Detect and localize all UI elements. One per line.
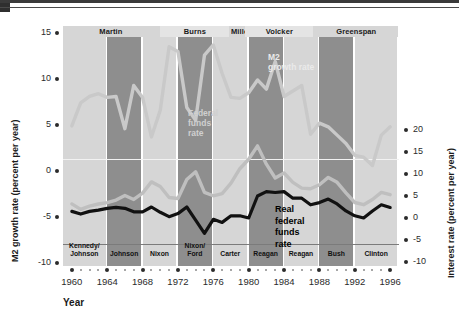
top-rule-thick bbox=[0, 0, 459, 3]
right-tick-label: -5 bbox=[413, 234, 433, 244]
x-tick-dot-minor bbox=[159, 269, 161, 271]
right-tick-dot bbox=[404, 238, 408, 242]
fed-chair-label: Miller bbox=[231, 27, 244, 36]
series-line bbox=[72, 45, 390, 166]
right-tick-label: 5 bbox=[413, 190, 433, 200]
president-label: Reagan bbox=[249, 250, 283, 258]
president-label: Reagan bbox=[284, 250, 318, 258]
left-tick-dot bbox=[55, 31, 59, 35]
x-tick-dot-minor bbox=[345, 269, 347, 271]
x-tick-dot-major bbox=[141, 268, 145, 272]
x-tick-dot-major bbox=[211, 268, 215, 272]
left-tick-label: 15 bbox=[24, 27, 51, 37]
x-tick-dot-minor bbox=[186, 269, 188, 271]
left-tick-dot bbox=[55, 215, 59, 219]
series-line bbox=[72, 146, 390, 210]
x-tick-dot-minor bbox=[380, 269, 382, 271]
x-tick-label: 1972 bbox=[158, 276, 198, 287]
fed-chair-label: Greenspan bbox=[315, 27, 398, 36]
x-tick-dot-major bbox=[70, 268, 74, 272]
right-tick-dot bbox=[404, 150, 408, 154]
left-tick-label: 10 bbox=[24, 73, 51, 83]
x-tick-dot-minor bbox=[301, 269, 303, 271]
president-label: Johnson bbox=[107, 250, 141, 258]
x-tick-dot-minor bbox=[89, 269, 91, 271]
x-tick-dot-minor bbox=[203, 269, 205, 271]
top-rule-thin bbox=[0, 7, 459, 8]
x-tick-dot-minor bbox=[97, 269, 99, 271]
right-tick-label: 10 bbox=[413, 168, 433, 178]
fed-chair-label: Martin bbox=[63, 27, 159, 36]
x-tick-dot-minor bbox=[230, 269, 232, 271]
x-tick-label: 1976 bbox=[193, 276, 233, 287]
left-tick-label: -10 bbox=[24, 257, 51, 267]
x-tick-label: 1988 bbox=[299, 276, 339, 287]
left-tick-dot bbox=[55, 169, 59, 173]
left-tick-dot bbox=[55, 123, 59, 127]
left-tick-label: -5 bbox=[24, 211, 51, 221]
right-tick-label: 20 bbox=[413, 124, 433, 134]
x-tick-dot-major bbox=[282, 268, 286, 272]
president-label: Clinton bbox=[355, 250, 398, 258]
series-annotation: Federal funds rate bbox=[188, 108, 218, 138]
right-tick-label: -10 bbox=[413, 256, 433, 266]
left-tick-label: 0 bbox=[24, 165, 51, 175]
x-tick-dot-minor bbox=[371, 269, 373, 271]
x-tick-label: 1984 bbox=[264, 276, 304, 287]
x-tick-dot-minor bbox=[274, 269, 276, 271]
x-tick-dot-minor bbox=[292, 269, 294, 271]
plot-area: MartinBurnsMillerVolckerGreenspan Kenned… bbox=[63, 26, 399, 266]
x-tick-label: 1964 bbox=[87, 276, 127, 287]
x-tick-dot-minor bbox=[327, 269, 329, 271]
x-tick-dot-minor bbox=[168, 269, 170, 271]
president-label: Nixon/ Ford bbox=[178, 242, 212, 257]
x-tick-dot-minor bbox=[195, 269, 197, 271]
x-tick-dot-minor bbox=[239, 269, 241, 271]
right-tick-dot bbox=[404, 194, 408, 198]
series-annotation: Real federal funds rate bbox=[275, 204, 305, 250]
left-tick-dot bbox=[55, 261, 59, 265]
right-tick-dot bbox=[404, 216, 408, 220]
x-tick-dot-minor bbox=[336, 269, 338, 271]
president-label: Carter bbox=[213, 250, 247, 258]
x-tick-dot-minor bbox=[133, 269, 135, 271]
right-tick-dot bbox=[404, 172, 408, 176]
series-lines bbox=[63, 26, 399, 266]
president-label: Bush bbox=[319, 250, 353, 258]
left-axis-title: M2 growth rate (percent per year) bbox=[10, 119, 20, 262]
left-tick-dot bbox=[55, 77, 59, 81]
fed-chair-label: Burns bbox=[160, 27, 229, 36]
chart-page: 151050-5-10 M2 growth rate (percent per … bbox=[0, 0, 459, 318]
president-label: Nixon bbox=[143, 250, 177, 258]
right-tick-dot bbox=[404, 128, 408, 132]
x-tick-dot-minor bbox=[257, 269, 259, 271]
left-tick-label: 5 bbox=[24, 119, 51, 129]
x-tick-dot-major bbox=[176, 268, 180, 272]
right-axis-title: Interest rate (percent per year) bbox=[446, 148, 456, 278]
x-tick-dot-minor bbox=[115, 269, 117, 271]
x-tick-dot-major bbox=[247, 268, 251, 272]
series-annotation: M2 growth rate bbox=[268, 52, 314, 72]
x-tick-label: 1980 bbox=[229, 276, 269, 287]
x-tick-label: 1960 bbox=[52, 276, 92, 287]
x-tick-dot-minor bbox=[124, 269, 126, 271]
x-tick-label: 1992 bbox=[335, 276, 375, 287]
fed-chair-label: Volcker bbox=[245, 27, 313, 36]
x-tick-dot-minor bbox=[310, 269, 312, 271]
x-tick-dot-major bbox=[317, 268, 321, 272]
right-tick-label: 15 bbox=[413, 146, 433, 156]
right-tick-dot bbox=[404, 260, 408, 264]
x-tick-dot-minor bbox=[363, 269, 365, 271]
x-tick-dot-minor bbox=[80, 269, 82, 271]
x-tick-dot-minor bbox=[221, 269, 223, 271]
x-tick-label: 1996 bbox=[370, 276, 410, 287]
x-tick-dot-major bbox=[353, 268, 357, 272]
x-tick-dot-major bbox=[105, 268, 109, 272]
x-tick-label: 1968 bbox=[123, 276, 163, 287]
x-tick-dot-major bbox=[388, 268, 392, 272]
x-tick-dot-minor bbox=[265, 269, 267, 271]
right-tick-label: 0 bbox=[413, 212, 433, 222]
x-axis-title: Year bbox=[63, 297, 84, 308]
president-label: Kennedy/ Johnson bbox=[63, 242, 106, 257]
x-tick-dot-minor bbox=[150, 269, 152, 271]
